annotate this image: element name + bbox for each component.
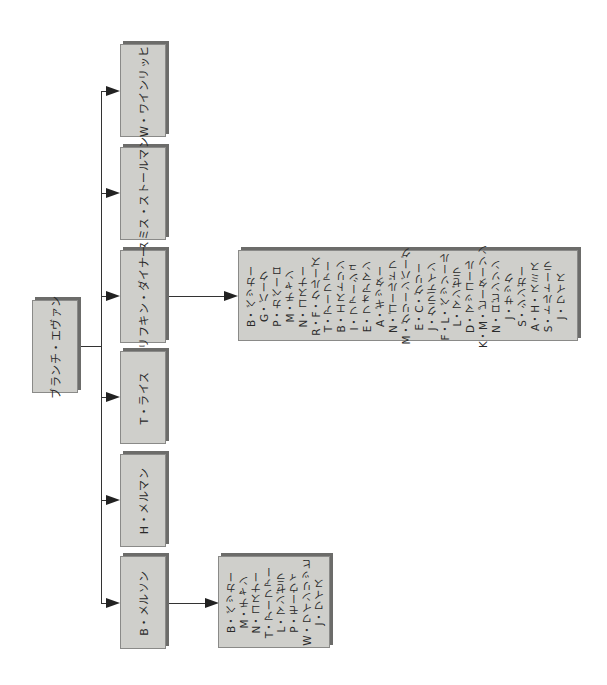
list-item: P・モーウィ	[288, 571, 301, 632]
list-item: G・バーク	[258, 269, 271, 321]
child-node-h-melman: H・メルマン	[120, 454, 166, 547]
list-item: B・ベッカー	[225, 571, 238, 633]
list-item: I・ファーシュ	[348, 261, 361, 330]
list-item: T・アーファー	[263, 566, 276, 638]
list-item: N・ゴールドフ	[387, 259, 400, 333]
trunk-line	[101, 91, 102, 604]
arrow-icon	[106, 392, 120, 402]
list-item: J・サック	[503, 272, 516, 319]
arrow-icon	[106, 86, 120, 96]
root-node-label: ブランチ・エヴァン	[47, 295, 63, 399]
list-item: B・ベッカー	[245, 264, 258, 326]
child-node-weinreich: W・ワインリッヒ	[120, 44, 166, 137]
list-item: E・C・グリー	[413, 261, 426, 330]
root-node: ブランチ・エヴァン	[32, 300, 78, 393]
child-node-label: T・ライス	[135, 371, 151, 424]
list-item: F・L・ベッソール	[439, 251, 452, 340]
list-item: S・トルトーラ	[542, 259, 555, 332]
rifkin-members-list: B・ベッカーG・バークP・カベーロM・チャンN・コスナーR・F・クルーズT・アー…	[238, 250, 578, 341]
list-item: N・コスナー	[250, 571, 263, 634]
child-node-label: リフキン・ダイナー	[135, 245, 151, 349]
melson-members-list: B・ベッカーM・チャンN・コスナーT・アーファーL・マンゼラP・モーウィW・ワイ…	[218, 556, 330, 648]
list-item: N・ロビンソン	[490, 259, 503, 333]
list-item: W・ワインリッヒ	[301, 558, 314, 645]
child-node-label: H・メルマン	[135, 467, 151, 533]
child-node-b-melson: B・メルソン	[120, 556, 166, 649]
list-item: T・アーファー	[322, 259, 335, 331]
list-item: B・エストリン	[335, 259, 348, 332]
child-node-label: スミス・ストールマン	[135, 136, 151, 251]
list-item: J・ワイス	[313, 578, 326, 625]
child-node-label: B・メルソン	[135, 570, 151, 636]
list-item: K・M・ピーターソン	[477, 244, 490, 348]
list-item: D・マッコール	[464, 258, 477, 332]
list-item: M・チャン	[284, 269, 297, 322]
arrow-icon	[224, 291, 238, 301]
rifkin-connector	[166, 296, 226, 297]
child-node-smith-stallman: スミス・ストールマン	[120, 147, 166, 240]
arrow-icon	[106, 598, 120, 608]
list-item: A・H・スミス	[529, 260, 542, 330]
list-item: L・マンゼラ	[275, 572, 288, 633]
list-item: J・ワイス	[555, 272, 568, 319]
child-node-rifkin-diner: リフキン・ダイナー	[120, 250, 166, 343]
list-item: J・クラデイン	[426, 261, 439, 330]
list-item: A・ギッター	[374, 264, 387, 326]
list-item: L・マンゼラ	[451, 265, 464, 326]
arrow-icon	[106, 291, 120, 301]
arrow-icon	[106, 188, 120, 198]
list-item: S・シンガー	[516, 265, 529, 327]
root-connector	[78, 346, 101, 347]
list-item: M・チャン	[238, 575, 251, 628]
child-node-label: W・ワインリッヒ	[135, 45, 151, 137]
list-item: R・F・クルーズ	[310, 256, 323, 335]
arrow-icon	[106, 495, 120, 505]
melson-connector	[166, 603, 208, 604]
list-item: P・カベーロ	[271, 265, 284, 326]
list-item: M・グリーンバーグ	[400, 247, 413, 344]
arrow-icon	[205, 598, 219, 608]
list-item: E・フォアマン	[361, 259, 374, 332]
list-item: N・コスナー	[297, 264, 310, 327]
child-node-t-rice: T・ライス	[120, 351, 166, 444]
